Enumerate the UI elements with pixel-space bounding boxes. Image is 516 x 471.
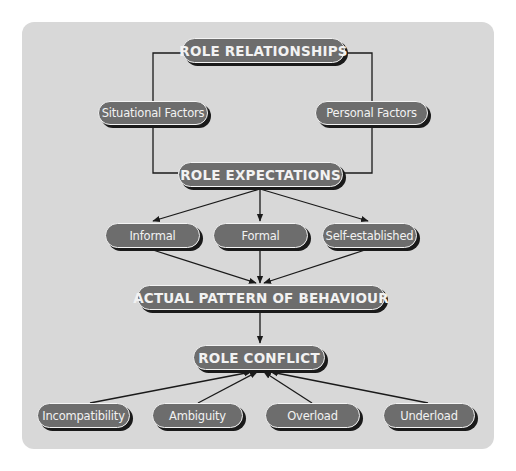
node-informal: Informal xyxy=(105,223,200,248)
node-role-relationships: ROLE RELATIONSHIPS xyxy=(182,38,345,63)
node-situational-factors: Situational Factors xyxy=(98,101,208,125)
node-role-expectations: ROLE EXPECTATIONS xyxy=(178,162,343,187)
node-actual-pattern-of-behaviour: ACTUAL PATTERN OF BEHAVIOUR xyxy=(137,285,385,310)
connector-personal-expectations xyxy=(343,125,372,173)
arrow-overload-conflict xyxy=(264,372,312,403)
node-role-conflict: ROLE CONFLICT xyxy=(193,345,325,370)
node-overload: Overload xyxy=(265,403,360,428)
arrow-informal-actual xyxy=(153,250,256,283)
arrow-self-established-actual xyxy=(264,250,365,283)
node-formal: Formal xyxy=(213,223,308,248)
arrow-underload-conflict xyxy=(271,372,428,403)
connector-situational-expectations xyxy=(153,125,178,173)
arrow-expectations-self-established xyxy=(260,189,368,221)
node-ambiguity: Ambiguity xyxy=(152,403,243,428)
connector-relationships-situational xyxy=(153,53,182,101)
arrow-expectations-informal xyxy=(153,189,260,221)
node-underload: Underload xyxy=(383,403,475,428)
node-self-established: Self-established xyxy=(322,223,417,248)
connector-relationships-personal xyxy=(345,53,372,101)
node-personal-factors: Personal Factors xyxy=(315,101,428,125)
node-incompatibility: Incompatibility xyxy=(37,403,130,428)
